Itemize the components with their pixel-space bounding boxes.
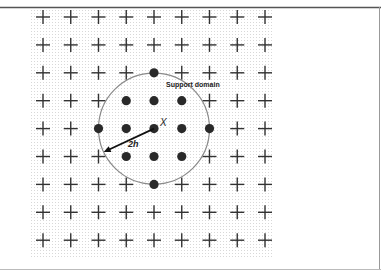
support-node-dot-icon	[177, 152, 186, 161]
support-node-dot-icon	[122, 124, 131, 133]
radius-label: 2h	[127, 139, 139, 149]
support-node-dot-icon	[149, 152, 158, 161]
support-node-dot-icon	[149, 180, 158, 189]
diagram-canvas: X 2h Support domain	[0, 0, 381, 272]
support-node-dot-icon	[122, 152, 131, 161]
support-node-dot-icon	[205, 124, 214, 133]
support-node-dot-icon	[94, 124, 103, 133]
support-domain-label: Support domain	[166, 81, 220, 89]
support-node-dot-icon	[149, 96, 158, 105]
center-point-label: X	[159, 117, 167, 128]
support-node-dot-icon	[149, 68, 158, 77]
support-node-dot-icon	[177, 96, 186, 105]
support-node-dot-icon	[177, 124, 186, 133]
support-node-dot-icon	[122, 96, 131, 105]
